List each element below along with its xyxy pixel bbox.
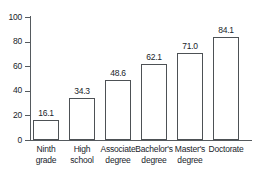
y-axis-tick-label: 60 [0,62,22,71]
x-axis-line [30,140,252,141]
bar-value-label: 62.1 [134,53,174,62]
y-axis-tick-mark [25,42,31,43]
y-axis-tick-label: 100 [0,13,22,22]
y-axis-tick-mark [25,66,31,67]
y-axis-tick-label: 0 [0,136,22,145]
category-label-line: Doctorate [200,144,252,155]
y-axis-tick-mark [25,140,31,141]
bar [213,37,239,140]
y-axis-tick-mark [25,17,31,18]
x-axis-category-label: Doctorate [200,144,252,155]
bar-value-label: 71.0 [170,42,210,51]
bar-chart: 020406080100 16.134.348.662.171.084.1 Ni… [0,0,261,175]
bar-value-label: 16.1 [26,109,66,118]
bar [141,64,167,140]
category-label-line: degree [164,155,216,166]
bar-value-label: 48.6 [98,69,138,78]
y-axis-tick-label: 40 [0,86,22,95]
bar [105,80,131,140]
bar-value-label: 84.1 [206,26,246,35]
bar [177,53,203,140]
bar-value-label: 34.3 [62,87,102,96]
y-axis-tick-label: 80 [0,37,22,46]
y-axis-tick-mark [25,91,31,92]
bar [33,120,59,140]
y-axis-line [30,16,31,141]
bar [69,98,95,140]
y-axis-tick-label: 20 [0,111,22,120]
